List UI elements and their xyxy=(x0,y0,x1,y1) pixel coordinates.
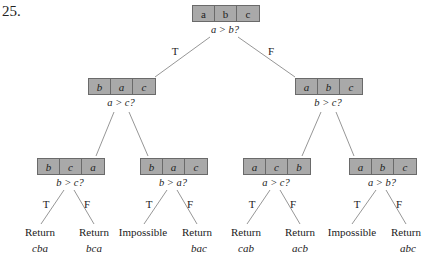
node-cell: b xyxy=(288,159,310,174)
level2-question-left: a > c? xyxy=(107,97,135,108)
root-question: a > b? xyxy=(211,24,239,35)
branch-false-label: F xyxy=(187,198,193,210)
branch-true-label: T xyxy=(43,198,50,210)
level3-node-2: b a c xyxy=(140,158,208,175)
node-cell: b xyxy=(89,79,111,94)
node-cell: a xyxy=(296,79,318,94)
node-cell: c xyxy=(185,159,207,174)
node-cell: b xyxy=(318,79,340,94)
root-node: a b c xyxy=(192,5,260,22)
level3-node-1: b c a xyxy=(37,158,105,175)
branch-true-label: T xyxy=(354,198,361,210)
node-cell: a xyxy=(244,159,266,174)
leaf-value: abc xyxy=(400,242,416,254)
level2-node-right: a b c xyxy=(295,78,363,95)
leaf-value: bca xyxy=(86,242,102,254)
leaf-label: Return xyxy=(79,226,109,238)
leaf-value: bac xyxy=(191,242,207,254)
level2-question-right: b > c? xyxy=(314,97,342,108)
leaf-label: Return xyxy=(182,226,212,238)
node-cell: c xyxy=(237,6,259,21)
node-cell: b xyxy=(38,159,60,174)
leaf-label: Return xyxy=(231,226,261,238)
level2-node-left: b a c xyxy=(88,78,156,95)
node-cell: a xyxy=(163,159,185,174)
node-cell: a xyxy=(82,159,104,174)
node-cell: a xyxy=(111,79,133,94)
node-cell: b xyxy=(141,159,163,174)
node-cell: c xyxy=(340,79,362,94)
level3-node-3: a c b xyxy=(243,158,311,175)
level3-question-3: a > c? xyxy=(262,177,290,188)
level3-question-4: a > b? xyxy=(368,177,396,188)
node-cell: a xyxy=(193,6,215,21)
leaf-value: cab xyxy=(238,242,254,254)
leaf-value: acb xyxy=(292,242,308,254)
leaf-label: Impossible xyxy=(119,226,167,238)
branch-false-label: F xyxy=(290,198,296,210)
level3-question-1: b > c? xyxy=(56,177,84,188)
leaf-value: cba xyxy=(32,242,48,254)
leaf-label: Return xyxy=(391,226,421,238)
branch-true-label: T xyxy=(172,45,179,57)
branch-false-label: F xyxy=(396,198,402,210)
node-cell: a xyxy=(350,159,372,174)
leaf-label: Impossible xyxy=(328,226,376,238)
level3-question-2: b > a? xyxy=(159,177,187,188)
node-cell: b xyxy=(215,6,237,21)
level3-node-4: a b c xyxy=(349,158,417,175)
node-cell: b xyxy=(372,159,394,174)
branch-false-label: F xyxy=(268,45,274,57)
branch-true-label: T xyxy=(146,198,153,210)
node-cell: c xyxy=(60,159,82,174)
node-cell: c xyxy=(266,159,288,174)
branch-false-label: F xyxy=(84,198,90,210)
node-cell: c xyxy=(133,79,155,94)
leaf-label: Return xyxy=(285,226,315,238)
branch-true-label: T xyxy=(249,198,256,210)
leaf-label: Return xyxy=(25,226,55,238)
node-cell: c xyxy=(394,159,416,174)
